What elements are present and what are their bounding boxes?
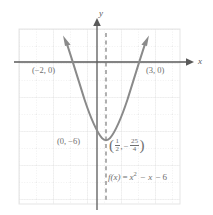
vertex-y-sign: − xyxy=(123,142,130,151)
equation-equals: = xyxy=(121,172,130,182)
vertex-left-paren: ( xyxy=(109,139,114,152)
graph-canvas xyxy=(0,0,213,215)
equation-term3: − 6 xyxy=(152,172,167,182)
vertex-x-fraction: 1 2 xyxy=(115,138,121,154)
vertex-y-fraction: 25 4 xyxy=(130,138,139,154)
vertex-x-denominator: 2 xyxy=(115,146,121,153)
equation-term2: − x xyxy=(137,172,152,182)
function-equation: f(x)=x2− x− 6 xyxy=(108,173,167,182)
vertex-right-paren: ) xyxy=(139,139,144,152)
point-label-x-intercept-left: (−2, 0) xyxy=(32,66,55,75)
y-axis-label: y xyxy=(99,9,103,18)
point-label-y-intercept: (0, −6) xyxy=(57,137,80,146)
point-label-vertex: ( 1 2 , − 25 4 ) xyxy=(109,138,144,154)
parabola-figure: x y (−2, 0) (3, 0) (0, −6) ( 1 2 , − 25 … xyxy=(0,0,213,215)
point-label-x-intercept-right: (3, 0) xyxy=(146,66,164,75)
vertex-y-denominator: 4 xyxy=(130,146,139,153)
x-axis-label: x xyxy=(198,57,202,66)
equation-lhs: f(x) xyxy=(108,172,121,182)
